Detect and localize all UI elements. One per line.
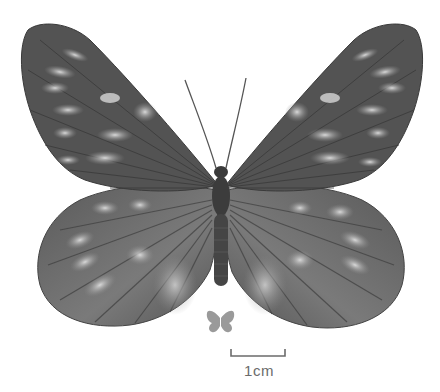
- left-forewing: [21, 24, 218, 191]
- butterfly-silhouette-icon: [207, 311, 234, 332]
- butterfly-specimen: [0, 0, 440, 392]
- right-hindwing: [225, 185, 405, 328]
- antennae: [185, 78, 246, 168]
- right-forewing: [226, 24, 423, 191]
- butterfly-body: [212, 166, 230, 286]
- left-hindwing: [38, 185, 218, 326]
- scale-bar: [231, 349, 285, 356]
- scale-bar-label: 1cm: [230, 362, 288, 379]
